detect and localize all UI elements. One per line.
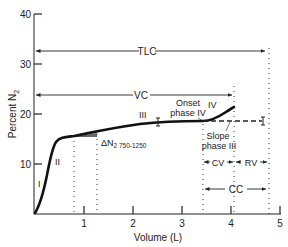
n2-washout-curve bbox=[35, 107, 234, 213]
n2-washout-chart: 40 30 20 10 Percent N2 1 2 3 4 5 Volume … bbox=[0, 0, 288, 247]
tlc-label: TLC bbox=[138, 46, 157, 57]
x-axis bbox=[34, 206, 281, 214]
y-axis-label: Percent N2 bbox=[7, 90, 20, 138]
phase-iii-label: III bbox=[139, 110, 147, 120]
x-tick-1: 1 bbox=[81, 218, 87, 229]
y-tick-10: 10 bbox=[20, 159, 32, 170]
x-tick-4: 4 bbox=[228, 218, 234, 229]
x-tick-3: 3 bbox=[179, 218, 185, 229]
onset-label-line1: Onset bbox=[176, 98, 201, 108]
y-tick-40: 40 bbox=[20, 9, 32, 20]
svg-text:Percent N2: Percent N2 bbox=[7, 90, 20, 138]
phase-i-label: I bbox=[38, 179, 41, 189]
rv-label: RV bbox=[245, 158, 257, 168]
delta-n2-label: ΔN2 750-1250 bbox=[101, 138, 147, 149]
onset-label-line2: phase IV bbox=[170, 108, 206, 118]
vc-label: VC bbox=[134, 90, 148, 101]
cv-label: CV bbox=[212, 158, 225, 168]
y-tick-20: 20 bbox=[20, 109, 32, 120]
slope-label-line2: phase III bbox=[202, 141, 237, 151]
phase-ii-label: II bbox=[55, 157, 60, 167]
cc-label: CC bbox=[229, 184, 243, 195]
slope-pointer bbox=[226, 122, 230, 131]
x-tick-2: 2 bbox=[130, 218, 136, 229]
y-tick-30: 30 bbox=[20, 59, 32, 70]
x-axis-label: Volume (L) bbox=[134, 232, 182, 243]
slope-label-line1: Slope bbox=[206, 131, 229, 141]
x-tick-5: 5 bbox=[277, 218, 283, 229]
phase-iv-label: IV bbox=[208, 100, 217, 110]
